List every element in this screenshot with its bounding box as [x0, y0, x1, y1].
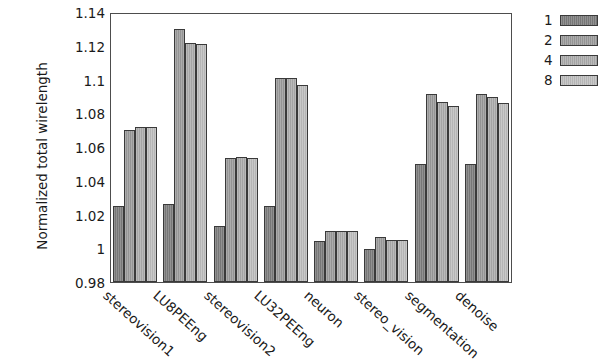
legend-item: 2 — [544, 32, 608, 49]
y-axis-tick-label: 1.02 — [75, 208, 105, 224]
legend-label: 2 — [544, 34, 557, 48]
bar — [297, 85, 308, 282]
legend-swatch — [560, 75, 598, 86]
bar — [347, 231, 358, 282]
y-axis-tick-label: 1 — [96, 241, 105, 257]
legend-swatch — [560, 15, 598, 26]
bar-group — [214, 14, 258, 282]
y-axis-label: Normalized total wirelength — [34, 26, 50, 286]
y-axis-tick-label: 0.98 — [75, 275, 105, 291]
bar — [386, 240, 397, 282]
bar — [264, 206, 275, 282]
bar — [426, 94, 437, 282]
bar — [415, 164, 426, 282]
bar — [286, 78, 297, 282]
bar — [397, 240, 408, 282]
bar — [437, 102, 448, 282]
bar — [314, 241, 325, 282]
bar — [135, 127, 146, 282]
bar-chart: Normalized total wirelength 1.141.121.11… — [0, 0, 615, 363]
y-axis-tick-label: 1.06 — [75, 140, 105, 156]
bar-group — [415, 14, 459, 282]
bar-group — [364, 14, 408, 282]
legend-item: 1 — [544, 12, 608, 29]
bar — [247, 158, 258, 282]
bar — [325, 231, 336, 282]
legend-label: 4 — [544, 54, 557, 68]
bar — [448, 106, 459, 282]
bar — [225, 158, 236, 282]
y-axis-tick-label: 1.12 — [75, 39, 105, 55]
bar — [364, 249, 375, 282]
y-axis-tick-label: 1.1 — [84, 73, 105, 89]
bar-group — [465, 14, 509, 282]
y-axis-tick-label: 1.08 — [75, 106, 105, 122]
bar — [124, 130, 135, 282]
bar-group — [314, 14, 358, 282]
bar — [214, 226, 225, 282]
bar — [196, 44, 207, 282]
y-axis-tick-label: 1.04 — [75, 174, 105, 190]
legend-item: 8 — [544, 72, 608, 89]
bar — [146, 127, 157, 282]
legend-label: 1 — [544, 14, 557, 28]
plot-area — [110, 13, 512, 283]
bar — [163, 204, 174, 282]
bar — [236, 157, 247, 282]
legend-swatch — [560, 55, 598, 66]
legend-item: 4 — [544, 52, 608, 69]
bar — [487, 97, 498, 282]
x-axis-tick-label: denoise — [452, 287, 502, 334]
legend: 1248 — [544, 12, 608, 92]
bar — [375, 237, 386, 282]
bar — [174, 29, 185, 282]
bar-group — [113, 14, 157, 282]
legend-swatch — [560, 35, 598, 46]
bar — [275, 78, 286, 282]
bar — [476, 94, 487, 282]
bar — [498, 103, 509, 282]
bar — [113, 206, 124, 282]
bar — [336, 231, 347, 282]
bar — [465, 164, 476, 282]
y-axis-tick-label: 1.14 — [75, 5, 105, 21]
legend-label: 8 — [544, 74, 557, 88]
bar-group — [163, 14, 207, 282]
bar-group — [264, 14, 308, 282]
bars-layer — [111, 14, 511, 282]
bar — [185, 43, 196, 282]
x-axis-tick-label: neuron — [301, 287, 347, 331]
